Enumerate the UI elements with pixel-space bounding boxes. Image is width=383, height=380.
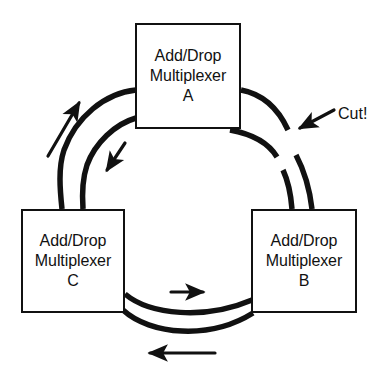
- ring-diagram: Add/Drop Multiplexer A Add/Drop Multiple…: [0, 0, 383, 380]
- node-b-line1: Add/Drop: [271, 231, 338, 251]
- node-b-line2: Multiplexer: [266, 251, 342, 271]
- cut-label: Cut!: [338, 104, 367, 123]
- node-a-line2: Multiplexer: [150, 66, 226, 86]
- add-drop-multiplexer-b[interactable]: Add/Drop Multiplexer B: [251, 209, 357, 313]
- node-c-line2: Multiplexer: [35, 251, 111, 271]
- node-b-line3: B: [299, 271, 310, 291]
- node-a-line1: Add/Drop: [155, 46, 222, 66]
- node-c-line3: C: [67, 271, 78, 291]
- fiber-inner-right-arc-upper: [230, 130, 277, 157]
- cut-callout-arrow: [300, 110, 334, 128]
- fiber-inner-left-arc: [82, 118, 136, 209]
- node-a-line3: A: [183, 86, 194, 106]
- add-drop-multiplexer-a[interactable]: Add/Drop Multiplexer A: [135, 23, 241, 129]
- fiber-inner-bottom-arc: [125, 294, 252, 313]
- fiber-outer-right-arc-lower: [296, 155, 312, 209]
- fiber-inner-right-arc-lower: [283, 170, 292, 209]
- fiber-outer-right-arc-upper: [241, 90, 288, 130]
- add-drop-multiplexer-c[interactable]: Add/Drop Multiplexer C: [21, 209, 125, 313]
- node-c-line1: Add/Drop: [40, 231, 107, 251]
- flow-arrow-upper-left-inner: [107, 143, 125, 170]
